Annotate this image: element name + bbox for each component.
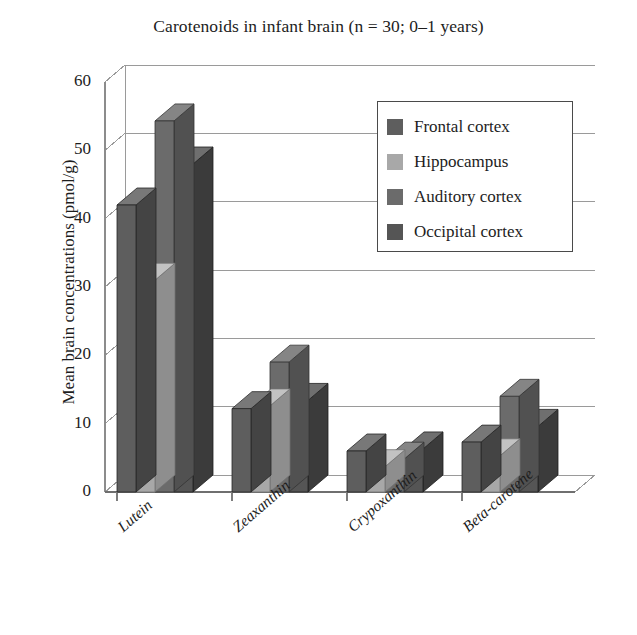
legend-swatch-icon xyxy=(387,224,403,240)
legend-label: Frontal cortex xyxy=(414,118,510,135)
y-tick-label: 20 xyxy=(49,344,91,364)
plot-area: 0102030405060 LuteinZeaxanthinCrypoxanth… xyxy=(0,0,637,635)
legend-item: Frontal cortex xyxy=(387,109,572,144)
legend-label: Occipital cortex xyxy=(414,223,523,240)
legend-item: Auditory cortex xyxy=(387,179,572,214)
bar xyxy=(117,188,156,492)
legend-label: Auditory cortex xyxy=(414,188,522,205)
y-tick-label: 40 xyxy=(49,208,91,228)
legend-swatch-icon xyxy=(387,189,403,205)
y-tick-label: 0 xyxy=(49,481,91,501)
legend-swatch-icon xyxy=(387,154,403,170)
y-tick-label: 10 xyxy=(49,413,91,433)
y-tick-label: 30 xyxy=(49,276,91,296)
legend-swatch-icon xyxy=(387,119,403,135)
legend-item: Hippocampus xyxy=(387,144,572,179)
y-tick-label: 50 xyxy=(49,139,91,159)
bar xyxy=(232,392,271,492)
y-tick-label: 60 xyxy=(49,71,91,91)
plot-axes xyxy=(0,0,637,635)
chart-legend: Frontal cortexHippocampusAuditory cortex… xyxy=(377,101,573,252)
chart-figure: Carotenoids in infant brain (n = 30; 0–1… xyxy=(0,0,637,635)
legend-item: Occipital cortex xyxy=(387,214,572,249)
legend-label: Hippocampus xyxy=(414,153,508,170)
